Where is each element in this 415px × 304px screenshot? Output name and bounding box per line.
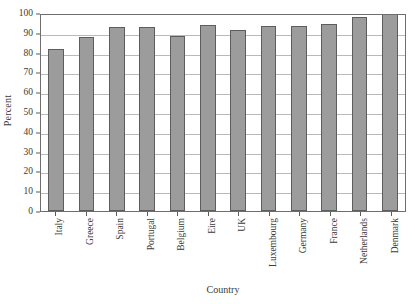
y-axis-title-label: Percent xyxy=(3,94,14,125)
bar-chart-figure: Percent 0102030405060708090100 ItalyGree… xyxy=(0,0,415,304)
x-tick-label: Netherlands xyxy=(360,218,370,264)
x-tick-mark xyxy=(299,212,300,216)
bar-slot xyxy=(253,15,283,211)
y-tick-label: 10 xyxy=(24,187,34,197)
x-axis-title: Country xyxy=(40,284,406,295)
x-tick-mark xyxy=(238,212,239,216)
x-axis-title-label: Country xyxy=(207,284,240,295)
y-tick-label: 60 xyxy=(24,88,34,98)
bar-slot xyxy=(102,15,132,211)
bar-slot xyxy=(344,15,374,211)
x-tick-slot: Eire xyxy=(193,212,224,284)
x-tick-mark xyxy=(86,212,87,216)
x-tick-slot: Spain xyxy=(101,212,132,284)
y-tick-label: 30 xyxy=(24,148,34,158)
x-tick-label: Italy xyxy=(55,218,65,235)
x-tick-mark xyxy=(55,212,56,216)
y-axis-tick-labels: 0102030405060708090100 xyxy=(14,14,36,212)
x-tick-slot: Portugal xyxy=(132,212,163,284)
x-tick-label: Germany xyxy=(299,218,309,253)
plot-area xyxy=(40,14,406,212)
x-tick-mark xyxy=(391,212,392,216)
bar-slot xyxy=(193,15,223,211)
bar-slot xyxy=(41,15,71,211)
x-tick-slot: Luxembourg xyxy=(254,212,285,284)
bar xyxy=(48,49,64,211)
bar xyxy=(230,30,246,211)
y-tick-label: 40 xyxy=(24,128,34,138)
y-tick-label: 80 xyxy=(24,49,34,59)
bar xyxy=(79,37,95,211)
x-tick-slot: UK xyxy=(223,212,254,284)
x-tick-label: Spain xyxy=(116,218,126,240)
bar xyxy=(291,26,307,211)
x-tick-label: Belgium xyxy=(177,218,187,251)
bar-slot xyxy=(223,15,253,211)
y-tick-label: 70 xyxy=(24,69,34,79)
bar-slot xyxy=(375,15,405,211)
bar xyxy=(321,24,337,211)
y-tick-label: 0 xyxy=(28,207,33,217)
bars-layer xyxy=(41,15,405,211)
bar xyxy=(200,25,216,211)
x-tick-mark xyxy=(208,212,209,216)
bar-slot xyxy=(284,15,314,211)
x-tick-slot: Netherlands xyxy=(345,212,376,284)
x-tick-label: Greece xyxy=(86,218,96,245)
bar xyxy=(382,14,398,211)
y-tick-label: 100 xyxy=(19,9,33,19)
bar-slot xyxy=(132,15,162,211)
x-tick-label: Eire xyxy=(208,218,218,234)
bar xyxy=(261,26,277,211)
x-tick-slot: France xyxy=(315,212,346,284)
x-tick-slot: Germany xyxy=(284,212,315,284)
x-tick-mark xyxy=(360,212,361,216)
x-tick-slot: Italy xyxy=(40,212,71,284)
bar xyxy=(170,36,186,211)
bar-slot xyxy=(314,15,344,211)
x-tick-mark xyxy=(269,212,270,216)
bar-slot xyxy=(71,15,101,211)
x-tick-label: Portugal xyxy=(147,218,157,250)
x-tick-label: Denmark xyxy=(391,218,401,253)
x-tick-label: Luxembourg xyxy=(269,218,279,267)
y-tick-label: 90 xyxy=(24,29,34,39)
x-tick-mark xyxy=(147,212,148,216)
x-tick-label: UK xyxy=(238,218,248,232)
x-tick-mark xyxy=(330,212,331,216)
y-tick-label: 50 xyxy=(24,108,34,118)
x-tick-mark xyxy=(177,212,178,216)
x-tick-mark xyxy=(116,212,117,216)
bar-slot xyxy=(162,15,192,211)
bar xyxy=(139,27,155,211)
x-tick-slot: Denmark xyxy=(376,212,407,284)
x-tick-label: France xyxy=(330,218,340,244)
x-tick-slot: Belgium xyxy=(162,212,193,284)
x-axis-tick-labels: ItalyGreeceSpainPortugalBelgiumEireUKLux… xyxy=(40,212,406,284)
x-tick-slot: Greece xyxy=(71,212,102,284)
bar xyxy=(352,17,368,211)
bar xyxy=(109,27,125,211)
y-tick-label: 20 xyxy=(24,168,34,178)
